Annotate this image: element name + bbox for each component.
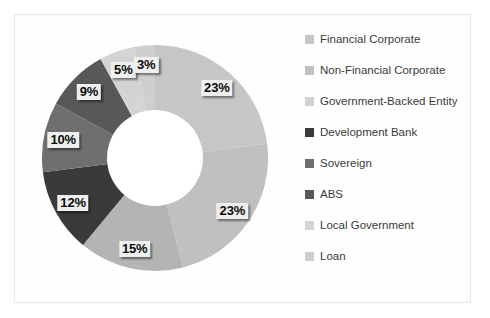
legend-item-label: Sovereign <box>320 156 372 170</box>
legend-item-label: Local Government <box>320 218 414 232</box>
legend-item[interactable]: Government-Backed Entity <box>305 94 473 108</box>
legend-item-label: Non-Financial Corporate <box>320 63 445 77</box>
legend-swatch-icon <box>305 252 314 261</box>
legend-item[interactable]: ABS <box>305 187 473 201</box>
legend-item[interactable]: Loan <box>305 249 473 263</box>
slice-data-label: 23% <box>201 80 232 96</box>
slice-data-label: 3% <box>134 57 158 73</box>
legend-item-label: Loan <box>320 249 346 263</box>
legend-swatch-icon <box>305 97 314 106</box>
legend-swatch-icon <box>305 221 314 230</box>
legend-item[interactable]: Local Government <box>305 218 473 232</box>
donut-hole <box>107 110 203 206</box>
legend-swatch-icon <box>305 190 314 199</box>
slice-data-label: 15% <box>119 241 150 257</box>
slice-data-label: 5% <box>111 62 135 78</box>
donut-chart: 23%23%15%12%10%9%5%3% <box>40 43 270 273</box>
legend-item[interactable]: Development Bank <box>305 125 473 139</box>
legend-item[interactable]: Non-Financial Corporate <box>305 63 473 77</box>
slice-data-label: 9% <box>77 84 101 100</box>
legend-item-label: Development Bank <box>320 125 417 139</box>
donut-svg <box>40 43 270 273</box>
legend-swatch-icon <box>305 66 314 75</box>
chart-figure: 23%23%15%12%10%9%5%3% Financial Corporat… <box>0 0 490 318</box>
slice-data-label: 12% <box>57 195 88 211</box>
legend-item-label: ABS <box>320 187 343 201</box>
legend-swatch-icon <box>305 128 314 137</box>
legend-item-label: Government-Backed Entity <box>320 94 457 108</box>
legend-item-label: Financial Corporate <box>320 32 420 46</box>
legend-swatch-icon <box>305 159 314 168</box>
legend-item[interactable]: Sovereign <box>305 156 473 170</box>
legend-item[interactable]: Financial Corporate <box>305 32 473 46</box>
legend-swatch-icon <box>305 35 314 44</box>
slice-data-label: 23% <box>217 203 248 219</box>
slice-data-label: 10% <box>47 132 78 148</box>
chart-legend: Financial CorporateNon-Financial Corpora… <box>305 32 473 280</box>
